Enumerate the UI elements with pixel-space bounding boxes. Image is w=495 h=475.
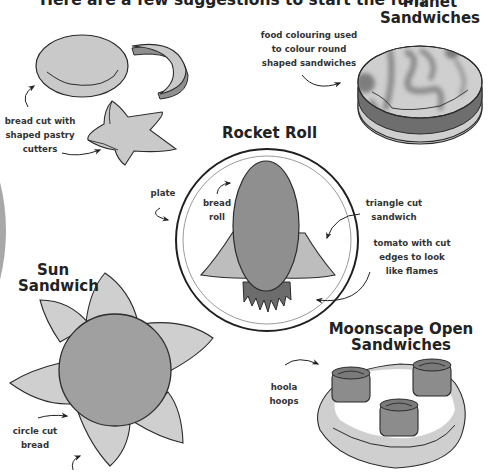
bread-roll-label: bread roll [200,196,234,224]
label-line: like flames [372,264,452,278]
planet-label: food colouring used to colour round shap… [256,28,362,70]
label-line: shaped pastry [2,128,78,142]
tomato-label: tomato with cut edges to look like flame… [372,236,452,278]
hoola-hoop-middle [380,399,418,436]
edge-arc-shape [0,182,6,280]
label-line: hoola [266,380,302,394]
hoola-hoop-left [332,367,370,402]
shaped-bread-label: bread cut with shaped pastry cutters [2,114,78,156]
label-line: hoops [266,394,302,408]
sun-label: circle cut bread [10,424,60,452]
label-line: bread [200,196,234,210]
heading-line: Moonscape Open [326,321,476,337]
crescent-bread-shape [132,44,188,99]
label-line: cutters [2,142,78,156]
label-line: circle cut [10,424,60,438]
label-line: roll [200,210,234,224]
suggestions-illustration: Here are a few suggestions to start the … [0,0,495,475]
heading-line: Sun [18,262,88,278]
triangle-sandwich-label: triangle cut sandwich [364,196,424,224]
hoola-hoop-right [413,359,451,396]
star-bread-shape [88,101,176,165]
oval-bread-shape [36,35,128,97]
heading-line: Sandwiches [380,10,480,26]
label-line: bread [10,438,60,452]
rocket-heading: Rocket Roll [222,125,312,141]
plate-label: plate [148,186,178,200]
page-title: Here are a few suggestions to start the … [40,0,345,9]
label-line: tomato with cut [372,236,452,250]
label-line: to colour round [256,42,362,56]
label-line: shaped sandwiches [256,56,362,70]
planet-sandwich-shape [355,45,482,144]
label-line: triangle cut [364,196,424,210]
hoola-hoops-label: hoola hoops [266,380,302,408]
bread-roll-shape [233,161,299,291]
heading-line: Sandwich [18,278,88,294]
label-line: bread cut with [2,114,78,128]
sun-heading: Sun Sandwich [18,262,88,294]
label-line: sandwich [364,210,424,224]
label-line: edges to look [372,250,452,264]
planet-heading: Planet Sandwiches [380,0,480,26]
moonscape-heading: Moonscape Open Sandwiches [326,321,476,353]
heading-line: Sandwiches [326,337,476,353]
label-line: food colouring used [256,28,362,42]
